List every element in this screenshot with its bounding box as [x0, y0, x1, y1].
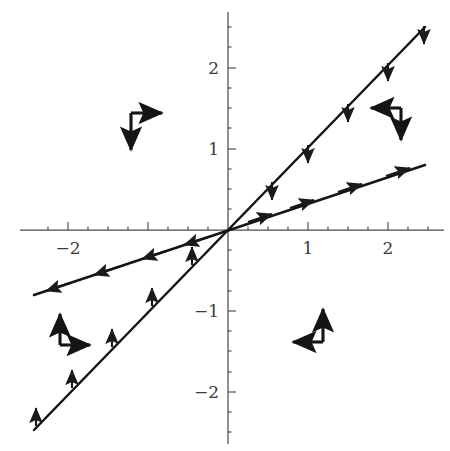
y-tick-label-neg1: −1 [194, 303, 219, 320]
plot-canvas [0, 0, 450, 451]
y-tick-label-neg2: −2 [194, 384, 219, 401]
y-tick-label-2: 2 [208, 60, 219, 77]
quadrant-1-marker [371, 108, 401, 140]
x-tick-label-1: 1 [303, 240, 314, 257]
flow-arrows-steep-line [36, 26, 424, 426]
x-tick-label-2: 2 [383, 240, 394, 257]
x-tick-label-neg2: −2 [55, 240, 80, 257]
quadrant-3-marker [60, 314, 90, 345]
quadrant-2-marker [131, 113, 162, 150]
phase-portrait-figure: −2 1 2 2 1 −1 −2 [0, 0, 450, 451]
y-tick-label-1: 1 [208, 141, 219, 158]
quadrant-4-marker [293, 309, 323, 342]
